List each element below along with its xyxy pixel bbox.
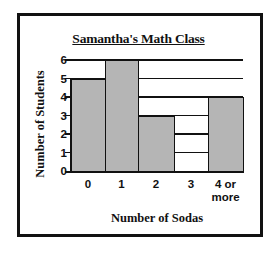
- bar-1: [105, 60, 139, 172]
- bar-2: [138, 116, 175, 173]
- x-axis-label: Number of Sodas: [0, 211, 277, 226]
- y-tick-label: 5: [53, 73, 67, 85]
- y-tick-label: 2: [53, 128, 67, 140]
- bar-4-or-more: [208, 97, 244, 172]
- y-tick-label: 3: [53, 110, 67, 122]
- x-tick-label: 4 or more: [208, 178, 243, 204]
- y-axis-line: [70, 79, 72, 173]
- x-tick-label: 3: [174, 178, 208, 191]
- x-tick-label: 0: [71, 178, 105, 191]
- y-tick-label: 4: [53, 91, 67, 103]
- y-tick-label: 1: [53, 147, 67, 159]
- gridline-6: [65, 59, 243, 61]
- y-tick-label: 6: [53, 54, 67, 66]
- x-tick-label: 2: [138, 178, 174, 191]
- x-tick-label: 1: [105, 178, 138, 191]
- x-axis-line: [65, 171, 244, 173]
- bar-0: [71, 79, 106, 173]
